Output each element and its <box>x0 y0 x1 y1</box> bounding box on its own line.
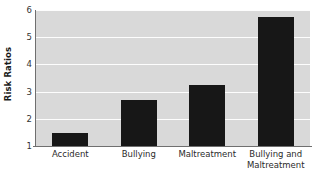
y-axis-tick-label: 5 <box>18 33 32 42</box>
bar <box>121 100 157 146</box>
bar <box>189 85 225 146</box>
x-axis-tick-labels: AccidentBullyingMaltreatmentBullying and… <box>36 149 310 179</box>
y-axis-tick-label: 6 <box>18 6 32 15</box>
gridline <box>36 10 310 11</box>
x-axis-line <box>33 146 312 147</box>
y-axis-tick-label: 3 <box>18 87 32 96</box>
y-axis-tick-label: 2 <box>18 115 32 124</box>
x-axis-tick-label: Bullying <box>105 149 174 160</box>
risk-ratios-bar-chart: Risk Ratios 123456 AccidentBullyingMaltr… <box>0 0 321 179</box>
x-axis-tick-label: Accident <box>36 149 105 160</box>
y-axis-title: Risk Ratios <box>0 0 16 148</box>
y-axis-line <box>35 10 36 147</box>
y-axis-tick-label: 4 <box>18 60 32 69</box>
bar <box>52 133 88 146</box>
y-axis-tick-label: 1 <box>18 142 32 151</box>
y-axis-tick-labels: 123456 <box>18 0 34 179</box>
x-axis-tick-label: Maltreatment <box>173 149 242 160</box>
x-axis-tick-label: Bullying and Maltreatment <box>242 149 311 170</box>
y-axis-title-label: Risk Ratios <box>3 47 13 101</box>
bar <box>258 17 294 146</box>
plot-area <box>36 10 310 146</box>
